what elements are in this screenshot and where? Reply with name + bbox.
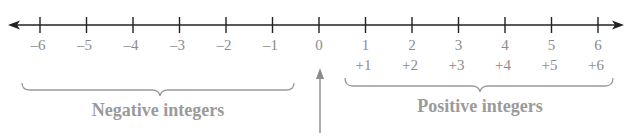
tick-label: 5 [548,38,556,53]
signed-tick-label: +1 [356,58,372,73]
tick-label: –2 [217,38,232,53]
tick-label: 1 [362,38,370,53]
tick-label: 2 [408,38,416,53]
tick-label: –1 [263,38,278,53]
tick-label: –5 [77,38,92,53]
signed-tick-label: +5 [542,58,558,73]
tick-label: –3 [170,38,185,53]
signed-tick-label: +6 [588,58,604,73]
negative-brace [22,83,294,96]
positive-integers-label: Positive integers [417,97,542,115]
tick-label: 0 [315,38,323,53]
tick-label: –4 [124,38,139,53]
tick-label: 6 [594,38,602,53]
tick-label: 4 [501,38,509,53]
tick-label: –6 [31,38,46,53]
negative-integers-label: Negative integers [92,101,224,119]
up-arrow-icon [316,68,324,133]
signed-tick-label: +3 [449,58,465,73]
positive-brace [345,78,613,92]
signed-tick-label: +2 [402,58,418,73]
number-line-diagram: –6–5–4–3–2–101+12+23+34+45+56+6 Negative… [0,0,635,140]
signed-tick-label: +4 [495,58,511,73]
tick-label: 3 [455,38,463,53]
